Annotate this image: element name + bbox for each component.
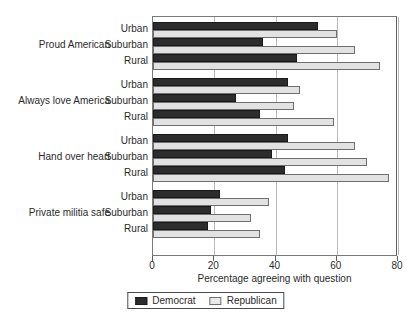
bar-democrat bbox=[153, 190, 220, 198]
bar-republican bbox=[153, 118, 334, 126]
bar-republican bbox=[153, 86, 300, 94]
legend-label-republican: Republican bbox=[227, 295, 277, 306]
bar-republican bbox=[153, 198, 269, 206]
bar-republican bbox=[153, 230, 260, 238]
category-label-suburban: Suburban bbox=[105, 95, 148, 106]
legend-item-democrat: Democrat bbox=[135, 295, 195, 306]
bar-chart: Proud AmericanAlways love AmericaHand ov… bbox=[0, 0, 412, 324]
bar-democrat bbox=[153, 222, 208, 230]
bar-republican bbox=[153, 102, 294, 110]
bar-democrat bbox=[153, 110, 260, 118]
bar-republican bbox=[153, 62, 380, 70]
bar-democrat bbox=[153, 38, 263, 46]
category-label-urban: Urban bbox=[121, 23, 148, 34]
category-label-axis: UrbanSuburbanRuralUrbanSuburbanRuralUrba… bbox=[60, 16, 148, 256]
bars-layer bbox=[153, 17, 396, 255]
bar-republican bbox=[153, 30, 337, 38]
bar-democrat bbox=[153, 22, 318, 30]
bar-democrat bbox=[153, 94, 236, 102]
bar-democrat bbox=[153, 150, 272, 158]
bar-democrat bbox=[153, 54, 297, 62]
bar-republican bbox=[153, 174, 389, 182]
bar-republican bbox=[153, 142, 355, 150]
category-label-urban: Urban bbox=[121, 79, 148, 90]
x-axis-tick-labels: 020406080 bbox=[152, 260, 397, 274]
bar-republican bbox=[153, 46, 355, 54]
category-label-suburban: Suburban bbox=[105, 39, 148, 50]
category-label-suburban: Suburban bbox=[105, 151, 148, 162]
bar-republican bbox=[153, 158, 367, 166]
x-tick-label-80: 80 bbox=[391, 260, 402, 271]
legend-swatch-republican bbox=[210, 297, 222, 305]
category-label-rural: Rural bbox=[124, 167, 148, 178]
legend-item-republican: Republican bbox=[210, 295, 277, 306]
bar-democrat bbox=[153, 166, 285, 174]
bar-republican bbox=[153, 214, 251, 222]
category-label-rural: Rural bbox=[124, 55, 148, 66]
gridline-80 bbox=[398, 17, 399, 255]
bar-democrat bbox=[153, 78, 288, 86]
bar-democrat bbox=[153, 134, 288, 142]
legend-swatch-democrat bbox=[135, 297, 147, 305]
x-tick-label-20: 20 bbox=[208, 260, 219, 271]
x-tick-label-0: 0 bbox=[149, 260, 155, 271]
category-label-rural: Rural bbox=[124, 223, 148, 234]
x-tick-label-40: 40 bbox=[269, 260, 280, 271]
category-label-urban: Urban bbox=[121, 191, 148, 202]
category-label-rural: Rural bbox=[124, 111, 148, 122]
category-label-suburban: Suburban bbox=[105, 207, 148, 218]
category-label-urban: Urban bbox=[121, 135, 148, 146]
plot-area bbox=[152, 16, 397, 256]
legend-label-democrat: Democrat bbox=[152, 295, 195, 306]
bar-democrat bbox=[153, 206, 211, 214]
x-axis-title: Percentage agreeing with question bbox=[152, 273, 397, 284]
x-tick-label-60: 60 bbox=[330, 260, 341, 271]
chart-legend: Democrat Republican bbox=[127, 292, 284, 309]
